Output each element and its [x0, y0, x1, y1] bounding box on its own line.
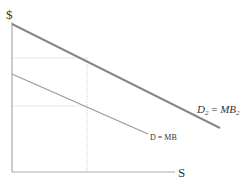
d-label: D = MB: [150, 133, 177, 142]
x-axis-label: S: [178, 165, 185, 180]
curve-d-mb: [12, 74, 148, 134]
curve-d2-mb2: [12, 24, 220, 128]
y-axis-label: $: [6, 7, 13, 22]
demand-diagram: $ S D2 = MB2 D = MB: [0, 0, 247, 186]
d2-label: D2 = MB2: [196, 103, 240, 117]
